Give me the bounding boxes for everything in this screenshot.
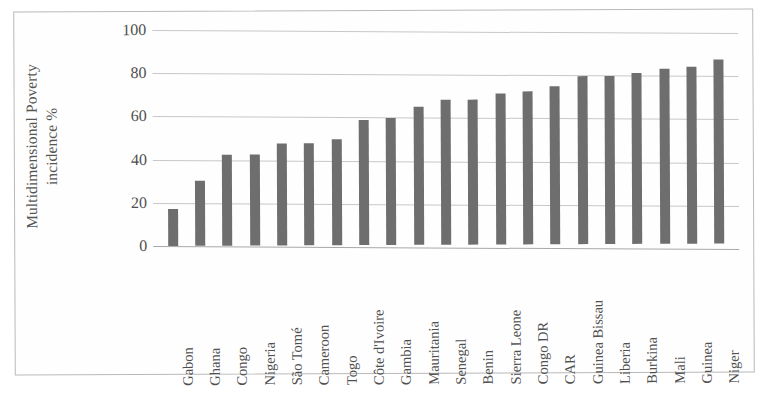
bar[interactable]: [659, 69, 670, 244]
bar-slot: [705, 27, 733, 243]
bar-slot: [240, 30, 268, 246]
x-label-slot: Congo DR: [515, 248, 543, 388]
y-axis-tick-labels: 100806040200: [88, 30, 147, 246]
y-axis-title-line-1: Multidimensional Poverty: [21, 31, 42, 261]
bar[interactable]: [604, 76, 615, 245]
x-label-slot: Guinea Bissau: [569, 248, 597, 388]
bar[interactable]: [304, 144, 314, 246]
bar[interactable]: [277, 144, 287, 246]
x-label-slot: Benin: [460, 249, 488, 389]
bar-slot: [322, 29, 350, 245]
x-label-slot: Togo: [323, 249, 351, 389]
bar[interactable]: [495, 93, 506, 244]
x-label-slot: Côte d'Ivoire: [351, 249, 379, 389]
x-axis-category-label: Niger: [726, 247, 742, 383]
figure-frame: Multidimensional Poverty incidence % 100…: [13, 8, 755, 375]
bar-slot: [486, 28, 514, 244]
x-label-slot: Mauritania: [405, 249, 433, 389]
x-axis-category-labels: GabonGhanaCongoNigeriaSão ToméCameroonTo…: [153, 247, 740, 390]
bar-slot: [596, 28, 624, 244]
bar-slot: [459, 29, 487, 245]
bar-slot: [650, 28, 678, 244]
x-label-slot: Senegal: [433, 249, 461, 389]
x-label-slot: Ghana: [187, 250, 215, 390]
y-axis-tick-label: 80: [88, 65, 146, 81]
x-label-slot: CAR: [542, 248, 570, 388]
x-label-slot: Niger: [706, 247, 734, 387]
y-axis-tick-label: 20: [89, 195, 147, 211]
bar[interactable]: [359, 120, 370, 245]
bar[interactable]: [195, 181, 205, 246]
bar-slot: [377, 29, 405, 245]
bar[interactable]: [714, 60, 725, 244]
x-label-slot: Sierra Leone: [487, 248, 515, 388]
y-axis-title-line-2: incidence %: [41, 31, 62, 261]
bar[interactable]: [550, 87, 561, 245]
bar-slot: [404, 29, 432, 245]
bar-slot: [541, 28, 569, 244]
bar[interactable]: [168, 209, 178, 246]
x-label-slot: Guinea: [678, 248, 706, 388]
bar[interactable]: [632, 73, 643, 244]
bar-slot: [213, 30, 241, 246]
y-axis-tick-label: 0: [89, 238, 147, 254]
bar-series: [152, 27, 739, 246]
bar-slot: [623, 28, 651, 244]
bar-slot: [514, 28, 542, 244]
bar[interactable]: [468, 100, 479, 245]
bar-slot: [268, 29, 296, 245]
bar[interactable]: [577, 76, 588, 245]
bar-slot: [186, 30, 214, 246]
bar-slot: [350, 29, 378, 245]
bar[interactable]: [249, 155, 259, 246]
bar-slot: [678, 28, 706, 244]
bar-slot: [432, 29, 460, 245]
bar[interactable]: [222, 155, 232, 246]
bar-slot: [158, 30, 186, 246]
bar[interactable]: [413, 107, 424, 245]
y-axis-tick-label: 100: [88, 22, 146, 38]
y-axis-tick-label: 60: [89, 108, 147, 124]
x-label-slot: Nigeria: [241, 250, 269, 390]
bar[interactable]: [686, 67, 697, 244]
bar-slot: [568, 28, 596, 244]
x-label-slot: Cameroon: [296, 249, 324, 389]
bar[interactable]: [522, 91, 533, 244]
bar[interactable]: [331, 139, 341, 245]
x-label-slot: Liberia: [596, 248, 624, 388]
y-axis-tick-label: 40: [89, 152, 147, 168]
x-label-slot: Gambia: [378, 249, 406, 389]
x-label-slot: Mali: [651, 248, 679, 388]
plot-area: [152, 27, 739, 246]
bar[interactable]: [441, 100, 452, 245]
x-label-slot: Burkina: [624, 248, 652, 388]
x-label-slot: Congo: [214, 250, 242, 390]
y-axis-title: Multidimensional Poverty incidence %: [21, 31, 82, 261]
bar[interactable]: [386, 118, 397, 245]
bar-slot: [295, 29, 323, 245]
x-label-slot: Gabon: [159, 250, 187, 390]
x-label-slot: São Tomé: [269, 249, 297, 389]
